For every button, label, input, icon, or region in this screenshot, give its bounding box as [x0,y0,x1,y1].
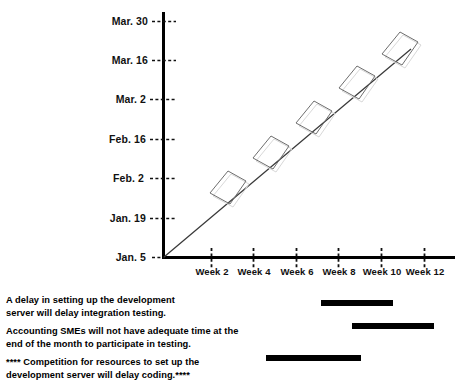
trend-line [164,49,411,257]
milestone-marker [382,32,418,65]
milestone-marker [296,101,332,134]
y-tick-label-jan-5: Jan. 5 [60,251,146,263]
risk-note-3-bar [266,355,361,361]
y-tick-label-jan-19: Jan. 19 [60,212,146,224]
milestone-marker-shadows [213,35,421,207]
y-tick-label-feb-2: Feb. 2 [60,172,144,184]
y-tick-label-mar-2: Mar. 2 [60,93,146,105]
risk-note-2-bar [352,323,434,329]
risk-note-1-bar [321,300,393,306]
y-tick-label-mar-30: Mar. 30 [60,15,148,27]
y-tick-label-feb-16: Feb. 16 [60,133,146,145]
milestone-marker [210,171,246,204]
milestone-marker [253,136,289,169]
risk-note-2: Accounting SMEs will not have adequate t… [6,325,336,350]
risk-note-1: A delay in setting up the development se… [6,294,296,319]
risk-note-3: **** Competition for resources to set up… [6,356,306,381]
milestone-chart: Mar. 30 Mar. 16 Mar. 2 Feb. 16 Feb. 2 Ja… [0,0,455,285]
x-tick-label-week-12: Week 12 [396,266,454,277]
y-tick-label-mar-16: Mar. 16 [60,54,148,66]
risk-notes-section: A delay in setting up the development se… [0,285,455,389]
